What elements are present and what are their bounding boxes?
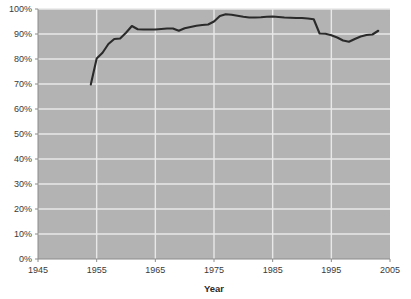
x-tick-label-1955: 1955 — [87, 265, 107, 275]
x-tick-label-1945: 1945 — [28, 265, 48, 275]
x-tick-label-2005: 2005 — [380, 265, 400, 275]
x-tick-label-1965: 1965 — [145, 265, 165, 275]
y-tick-label-100: 100% — [9, 4, 32, 14]
x-tick-label-1985: 1985 — [263, 265, 283, 275]
x-axis-title: Year — [204, 283, 224, 294]
y-tick-label-90: 90% — [14, 29, 32, 39]
y-tick-label-30: 30% — [14, 179, 32, 189]
y-tick-label-10: 10% — [14, 229, 32, 239]
chart-figure: 0%10%20%30%40%50%60%70%80%90%100% 194519… — [0, 0, 411, 299]
x-tick-label-1995: 1995 — [321, 265, 341, 275]
y-tick-label-50: 50% — [14, 129, 32, 139]
y-tick-label-80: 80% — [14, 54, 32, 64]
line-chart: 0%10%20%30%40%50%60%70%80%90%100% 194519… — [0, 0, 411, 299]
y-tick-label-60: 60% — [14, 104, 32, 114]
y-tick-label-20: 20% — [14, 204, 32, 214]
y-tick-label-40: 40% — [14, 154, 32, 164]
y-tick-label-70: 70% — [14, 79, 32, 89]
y-tick-label-0: 0% — [19, 254, 32, 264]
x-tick-label-1975: 1975 — [204, 265, 224, 275]
